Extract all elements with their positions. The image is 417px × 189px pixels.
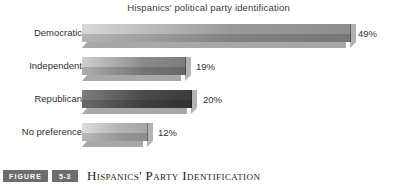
- figure-number-badge: 5-3: [52, 170, 78, 182]
- bar-bottom-edge: [82, 141, 143, 147]
- bar-value-label: 49%: [358, 28, 377, 39]
- bar-face: [82, 57, 186, 75]
- bar-value-label: 20%: [203, 94, 222, 105]
- bar-independent[interactable]: [82, 57, 186, 81]
- bar-row: Democratic 49%: [0, 24, 417, 50]
- bar-end-cap: [350, 24, 356, 48]
- bar-face: [82, 90, 192, 108]
- figure-caption: FIGURE 5-3 Hispanics' Party Identificati…: [3, 168, 260, 184]
- figure-caption-title: Hispanics' Party Identification: [87, 168, 260, 184]
- bar-republican[interactable]: [82, 90, 192, 114]
- bar-value-label: 19%: [196, 61, 215, 72]
- bar-no-preference[interactable]: [82, 123, 148, 147]
- chart-title: Hispanics' political party identificatio…: [0, 2, 417, 13]
- bar-bottom-edge: [82, 42, 346, 48]
- bar-bottom-edge: [82, 75, 181, 81]
- bar-category-label: Republican: [0, 93, 82, 104]
- chart-plot-area: Democratic 49% Independent 19% Republica…: [0, 24, 417, 152]
- bar-end-cap: [185, 57, 191, 81]
- bar-democratic[interactable]: [82, 24, 351, 48]
- bar-end-cap: [191, 90, 197, 114]
- bar-category-label: Democratic: [0, 27, 82, 38]
- bar-row: No preference 12%: [0, 123, 417, 149]
- bar-bottom-edge: [82, 108, 187, 114]
- bar-end-cap: [147, 123, 153, 147]
- bar-category-label: No preference: [0, 126, 82, 137]
- figure-badge: FIGURE: [3, 170, 48, 182]
- bar-row: Independent 19%: [0, 57, 417, 83]
- bar-row: Republican 20%: [0, 90, 417, 116]
- bar-face: [82, 24, 351, 42]
- bar-value-label: 12%: [158, 127, 177, 138]
- bar-category-label: Independent: [0, 60, 82, 71]
- bar-face: [82, 123, 148, 141]
